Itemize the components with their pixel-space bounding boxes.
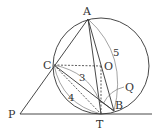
geometry-diagram: A O C T B P Q 5 3 4 — [0, 0, 155, 133]
line-pa — [20, 19, 88, 114]
measure-label-3: 3 — [79, 72, 85, 83]
label-p: P — [8, 108, 16, 121]
label-c: C — [43, 59, 51, 72]
measure-label-4: 4 — [68, 92, 74, 103]
label-t: T — [96, 118, 104, 131]
label-q: Q — [125, 81, 134, 94]
measure-label-5: 5 — [113, 47, 119, 58]
measure-arc-5 — [88, 19, 118, 111]
line-ct — [54, 65, 101, 114]
label-o: O — [104, 60, 113, 73]
label-b: B — [115, 99, 123, 112]
label-a: A — [82, 5, 92, 18]
